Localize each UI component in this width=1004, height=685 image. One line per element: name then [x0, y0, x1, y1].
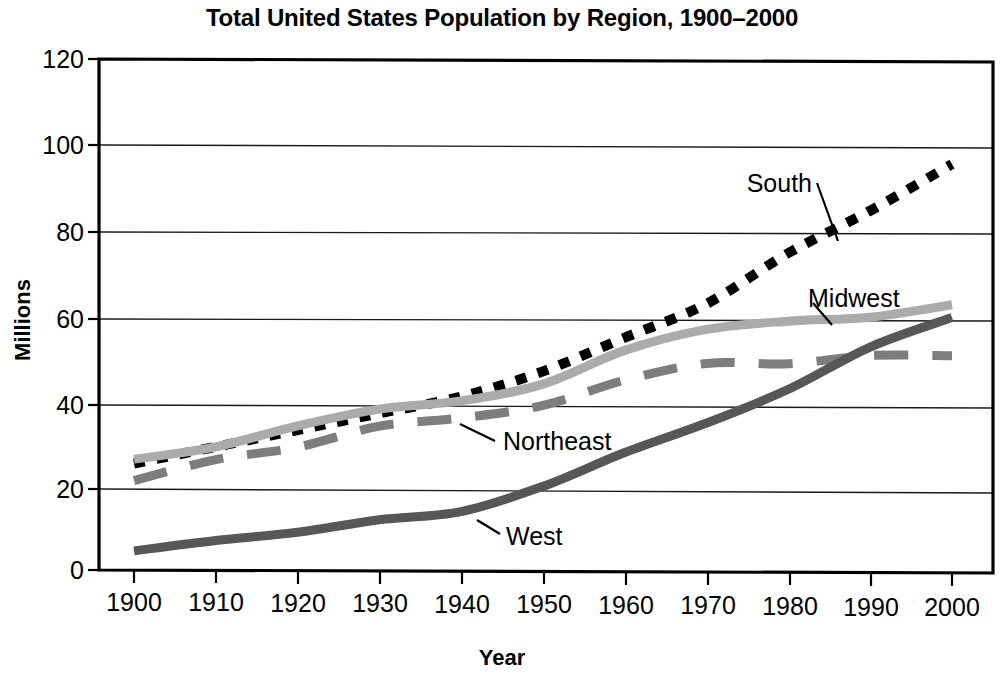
x-tick-label-1950: 1950: [516, 590, 572, 618]
x-tick-label-1930: 1930: [352, 589, 408, 617]
y-axis-tick-labels: 120 100 80 60 40 20 0: [42, 45, 84, 584]
y-tick-label-40: 40: [56, 391, 84, 419]
chart-plot-area: 120 100 80 60 40 20 0 Millions 1900: [0, 0, 1004, 685]
annotation-leaders: [460, 183, 838, 534]
x-axis-title: Year: [479, 645, 526, 670]
x-tick-label-1970: 1970: [680, 591, 736, 619]
series-label-west: West: [506, 522, 563, 550]
y-tick-label-80: 80: [56, 218, 84, 246]
x-axis-tick-labels: 1900 1910 1920 1930 1940 1950 1960 1970 …: [106, 588, 980, 621]
x-tick-label-1940: 1940: [434, 590, 490, 618]
series-label-south: South: [747, 169, 812, 197]
y-tick-label-120: 120: [42, 45, 84, 73]
series-label-midwest: Midwest: [808, 284, 900, 312]
y-axis-title: Millions: [10, 279, 35, 361]
x-tick-label-1960: 1960: [598, 591, 654, 619]
x-tick-label-1980: 1980: [762, 592, 818, 620]
y-axis-ticks: [88, 59, 99, 570]
x-tick-label-1920: 1920: [270, 589, 326, 617]
x-tick-label-2000: 2000: [924, 593, 980, 621]
y-tick-label-0: 0: [70, 556, 84, 584]
x-tick-label-1900: 1900: [106, 588, 162, 616]
x-tick-label-1990: 1990: [843, 593, 899, 621]
y-tick-label-100: 100: [42, 131, 84, 159]
x-tick-label-1910: 1910: [188, 588, 244, 616]
chart-figure: Total United States Population by Region…: [0, 0, 1004, 685]
series-line-south: [134, 164, 952, 463]
y-tick-label-60: 60: [56, 305, 84, 333]
y-tick-label-20: 20: [56, 475, 84, 503]
series-label-northeast: Northeast: [503, 427, 611, 455]
